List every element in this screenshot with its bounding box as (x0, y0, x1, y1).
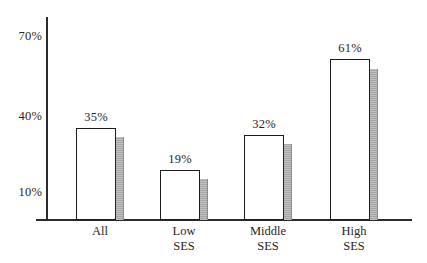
bar-shadow-all (116, 137, 124, 220)
bar-rect-all[interactable] (76, 128, 116, 220)
plot-area: 35% 19% 32% 61% (48, 17, 412, 220)
bar-value-middle-ses: 32% (244, 118, 284, 131)
cat-label-low-ses-line1: Low (173, 224, 196, 238)
bar-value-low-ses: 19% (160, 153, 200, 166)
cat-label-low-ses-line2: SES (154, 239, 214, 254)
bar-rect-high-ses[interactable] (330, 59, 370, 220)
cat-label-middle-ses-line2: SES (238, 239, 298, 254)
bar-shadow-high-ses (370, 69, 378, 220)
cat-label-low-ses: Low SES (154, 224, 214, 253)
x-axis-category-labels: All Low SES Middle SES High SES (48, 224, 412, 262)
bar-rect-low-ses[interactable] (160, 170, 200, 220)
cat-label-high-ses: High SES (324, 224, 384, 253)
bar-group-low-ses[interactable]: 19% (160, 17, 208, 220)
cat-label-middle-ses-line1: Middle (250, 224, 286, 238)
bar-shadow-low-ses (200, 179, 208, 220)
y-tick-label-10: 10% (2, 186, 42, 199)
bar-group-high-ses[interactable]: 61% (330, 17, 378, 220)
y-axis-ticks: 70% 40% 10% (0, 0, 42, 263)
bar-shadow-middle-ses (284, 144, 292, 220)
bar-value-high-ses: 61% (330, 42, 370, 55)
cat-label-high-ses-line1: High (342, 224, 367, 238)
y-tick-label-40: 40% (2, 110, 42, 123)
bar-rect-middle-ses[interactable] (244, 135, 284, 220)
cat-label-middle-ses: Middle SES (238, 224, 298, 253)
bar-chart: 70% 40% 10% 35% 19% 32% 61% (0, 0, 427, 263)
cat-label-high-ses-line2: SES (324, 239, 384, 254)
y-tick-label-70: 70% (2, 30, 42, 43)
bar-group-all[interactable]: 35% (76, 17, 124, 220)
bar-group-middle-ses[interactable]: 32% (244, 17, 292, 220)
cat-label-all: All (70, 224, 130, 239)
bar-value-all: 35% (76, 111, 116, 124)
cat-label-all-line1: All (92, 224, 108, 238)
